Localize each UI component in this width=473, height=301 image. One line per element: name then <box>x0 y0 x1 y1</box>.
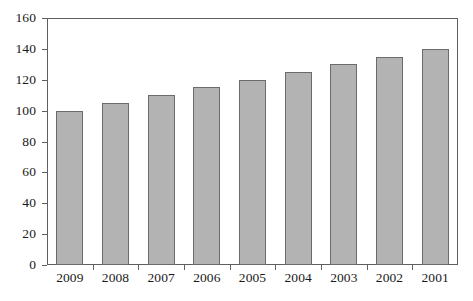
x-axis-tick-mark <box>138 265 139 270</box>
bar <box>193 87 220 265</box>
y-axis-tick-label: 120 <box>2 73 36 87</box>
bar <box>422 49 449 265</box>
bar <box>56 111 83 265</box>
y-axis-tick-label: 20 <box>2 227 36 241</box>
y-axis-tick-label: 60 <box>2 165 36 179</box>
bar <box>376 57 403 265</box>
y-axis: 020406080100120140160 <box>0 0 47 301</box>
x-axis-tick-mark <box>93 265 94 270</box>
x-axis-tick-mark <box>367 265 368 270</box>
y-axis-tick-mark <box>42 265 47 266</box>
y-axis-tick-mark <box>42 80 47 81</box>
x-axis-tick-label: 2005 <box>230 271 276 285</box>
y-axis-tick-label: 80 <box>2 135 36 149</box>
x-axis-tick-label: 2001 <box>412 271 458 285</box>
x-axis-tick-label: 2003 <box>321 271 367 285</box>
x-axis-tick-mark <box>321 265 322 270</box>
x-axis-tick-label: 2004 <box>275 271 321 285</box>
x-axis-tick-label: 2002 <box>367 271 413 285</box>
bars-container <box>47 18 458 265</box>
y-axis-tick-mark <box>42 234 47 235</box>
bar <box>239 80 266 265</box>
y-axis-tick-label: 100 <box>2 104 36 118</box>
x-axis-tick-label: 2007 <box>138 271 184 285</box>
x-axis-tick-mark <box>412 265 413 270</box>
x-axis-tick-label: 2009 <box>47 271 93 285</box>
y-axis-tick-mark <box>42 18 47 19</box>
x-axis-tick-mark <box>275 265 276 270</box>
x-axis-tick-label: 2006 <box>184 271 230 285</box>
y-axis-tick-mark <box>42 49 47 50</box>
x-axis: 200920082007200620052004200320022001 <box>47 269 458 301</box>
y-axis-tick-label: 40 <box>2 196 36 210</box>
x-axis-tick-label: 2008 <box>93 271 139 285</box>
y-axis-tick-mark <box>42 111 47 112</box>
bar <box>102 103 129 265</box>
y-axis-tick-label: 160 <box>2 11 36 25</box>
bar <box>330 64 357 265</box>
y-axis-tick-mark <box>42 172 47 173</box>
x-axis-tick-mark <box>184 265 185 270</box>
y-axis-tick-mark <box>42 203 47 204</box>
bar <box>148 95 175 265</box>
y-axis-tick-label: 0 <box>2 258 36 272</box>
bar-chart: 020406080100120140160 200920082007200620… <box>0 0 473 301</box>
x-axis-tick-mark <box>230 265 231 270</box>
bar <box>285 72 312 265</box>
y-axis-tick-mark <box>42 142 47 143</box>
y-axis-tick-label: 140 <box>2 42 36 56</box>
